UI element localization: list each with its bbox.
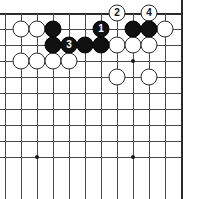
stone-white[interactable] (13, 21, 30, 38)
grid-line-horizontal (0, 93, 182, 94)
grid-line-horizontal (0, 141, 182, 142)
grid-line-horizontal (0, 157, 182, 158)
stone-white[interactable] (141, 37, 158, 54)
stone-black[interactable] (141, 21, 158, 38)
stone-white[interactable] (13, 53, 30, 70)
stone-move-number: 3 (66, 40, 72, 50)
grid-line-vertical (181, 0, 183, 199)
grid-line-vertical (37, 13, 38, 199)
edge-marker-white-4[interactable]: 4 (141, 5, 158, 22)
stone-black-1[interactable]: 1 (93, 21, 110, 38)
stone-white[interactable] (29, 21, 46, 38)
stone-white[interactable] (29, 53, 46, 70)
grid-line-horizontal (0, 125, 182, 126)
star-point (131, 155, 135, 159)
grid-line-horizontal (0, 109, 182, 110)
stone-white[interactable] (45, 53, 62, 70)
stone-white[interactable] (109, 69, 126, 86)
edge-marker-white-2[interactable]: 2 (109, 5, 126, 22)
stone-white[interactable] (61, 53, 78, 70)
stone-move-number: 2 (114, 8, 120, 18)
stone-move-number: 1 (98, 24, 104, 34)
stone-move-number: 4 (146, 8, 152, 18)
stone-black[interactable] (45, 37, 62, 54)
stone-black[interactable] (93, 37, 110, 54)
stone-white[interactable] (157, 21, 174, 38)
stone-black[interactable] (45, 21, 62, 38)
stone-black-3[interactable]: 3 (61, 37, 78, 54)
stone-black[interactable] (125, 21, 142, 38)
grid-line-vertical (165, 13, 166, 199)
star-point (35, 155, 39, 159)
stone-black[interactable] (77, 37, 94, 54)
stone-white[interactable] (125, 37, 142, 54)
star-point (131, 59, 135, 63)
stone-white[interactable] (109, 37, 126, 54)
stone-white[interactable] (141, 69, 158, 86)
go-board-diagram: 13 24 (0, 0, 201, 199)
grid-line-vertical (21, 13, 22, 199)
grid-line-vertical (5, 13, 6, 199)
